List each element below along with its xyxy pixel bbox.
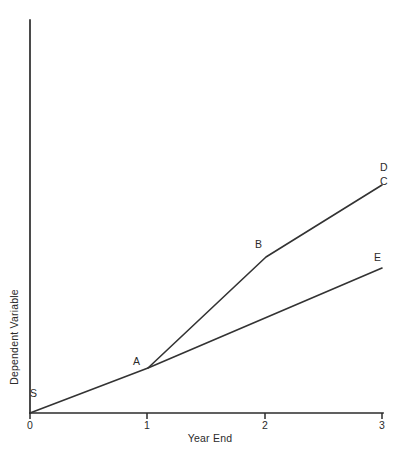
series-line-ae bbox=[148, 268, 382, 368]
x-tick-label-2: 2 bbox=[262, 419, 268, 431]
x-tick-label-0: 0 bbox=[27, 419, 33, 431]
y-axis-title: Dependent Variable bbox=[8, 289, 20, 385]
point-label-s: S bbox=[30, 387, 37, 399]
point-label-c: C bbox=[380, 175, 388, 187]
x-tick-label-3: 3 bbox=[379, 419, 385, 431]
point-label-a: A bbox=[133, 355, 140, 367]
point-label-d: D bbox=[380, 161, 388, 173]
chart-container: 0 1 2 3 S A B D C E Year End Dependent V… bbox=[0, 0, 411, 463]
x-tick-label-1: 1 bbox=[144, 419, 150, 431]
point-label-e: E bbox=[374, 251, 381, 263]
series-line-sabc bbox=[30, 185, 382, 413]
point-label-b: B bbox=[255, 238, 262, 250]
x-axis-title: Year End bbox=[188, 432, 232, 444]
chart-plot-area bbox=[0, 0, 411, 463]
